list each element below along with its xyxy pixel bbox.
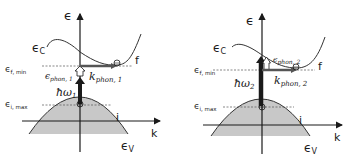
i-max-label: ϵi, max	[5, 99, 28, 110]
phonon-k-label: kphon, 1	[89, 70, 122, 84]
phonon-energy-arrow	[263, 57, 271, 70]
valence-band-label: ϵV	[121, 139, 134, 154]
conduction-band-label: ϵC	[213, 41, 226, 56]
conduction-band-label: ϵC	[32, 41, 45, 56]
photon-energy-label: ħω1	[56, 86, 77, 100]
band-diagram-panel-1: ϵ k ϵC ϵV f i ϵf, min ϵi, max ħω1 ϵphon,…	[0, 0, 180, 158]
f-min-label: ϵf, min	[5, 64, 27, 75]
band-diagram-panel-2: ϵ k ϵC ϵV f i ϵf, min ϵi, max ħω2 ϵphon,…	[177, 0, 357, 158]
final-state-label: f	[318, 60, 323, 73]
valence-band-label: ϵV	[304, 141, 317, 156]
initial-state-label: i	[116, 111, 119, 124]
f-min-label: ϵf, min	[194, 65, 216, 76]
conduction-band-curve	[47, 34, 141, 65]
final-state-label: f	[135, 54, 140, 67]
i-max-label: ϵi, max	[194, 101, 217, 112]
energy-axis-label: ϵ	[246, 13, 254, 28]
k-axis-label: k	[151, 127, 158, 140]
phonon-energy-label: ϵphon, 1	[45, 71, 73, 83]
initial-state-label: i	[299, 114, 302, 127]
phonon-energy-arrow	[75, 66, 85, 76]
phonon-k-label: kphon, 2	[274, 74, 308, 88]
phonon-energy-label: ϵphon, 2	[273, 55, 300, 66]
k-axis-label: k	[334, 131, 341, 144]
photon-energy-label: ħω2	[234, 77, 255, 91]
energy-axis-label: ϵ	[64, 8, 72, 23]
